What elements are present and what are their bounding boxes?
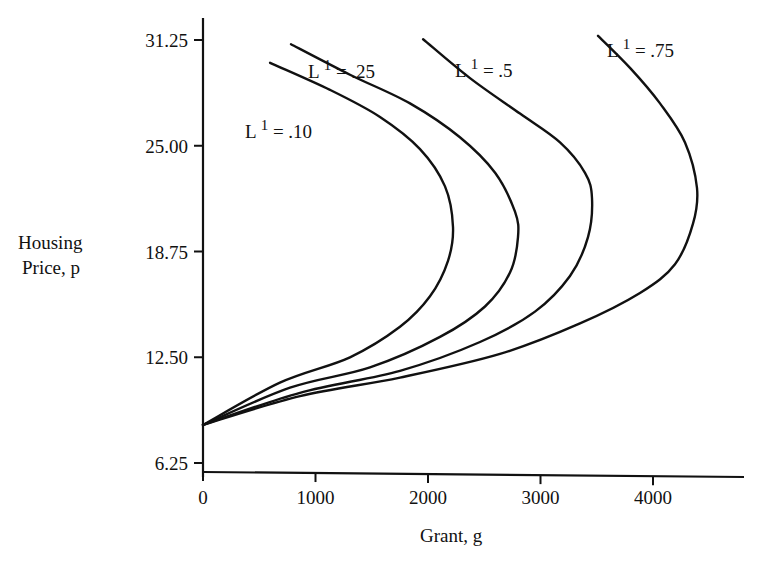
y-tick-label: 31.25 — [145, 30, 188, 51]
x-axis-title: Grant, g — [420, 525, 483, 546]
y-ticks: 6.2512.5018.7525.0031.25 — [145, 30, 203, 474]
label-l1-010: L 1 = .10 — [245, 117, 312, 142]
label-l1-075: L 1 = .75 — [607, 36, 674, 61]
curve-l1-010 — [203, 63, 453, 425]
curve-l1-075 — [203, 36, 697, 425]
x-tick-label: 0 — [198, 487, 208, 508]
curve-l1-025 — [203, 44, 518, 425]
label-l1-050: L 1 = .5 — [455, 56, 513, 81]
curve-labels: L 1 = .10L 1 = .25L 1 = .5L 1 = .75 — [245, 36, 674, 142]
x-tick-label: 2000 — [409, 487, 447, 508]
x-tick-label: 1000 — [297, 487, 335, 508]
label-l1-025: L 1 = .25 — [308, 57, 375, 82]
x-tick-label: 3000 — [522, 487, 560, 508]
y-axis-title-line2: Price, p — [22, 257, 80, 278]
y-tick-label: 18.75 — [145, 242, 188, 263]
x-tick-label: 4000 — [634, 487, 672, 508]
x-axis — [203, 472, 744, 477]
x-ticks: 01000200030004000 — [198, 472, 672, 508]
y-tick-label: 25.00 — [145, 136, 188, 157]
y-axis-title-line1: Housing — [18, 232, 83, 253]
y-tick-label: 6.25 — [155, 453, 188, 474]
curves — [203, 36, 697, 425]
y-tick-label: 12.50 — [145, 347, 188, 368]
chart: 6.2512.5018.7525.0031.25 010002000300040… — [0, 0, 761, 569]
